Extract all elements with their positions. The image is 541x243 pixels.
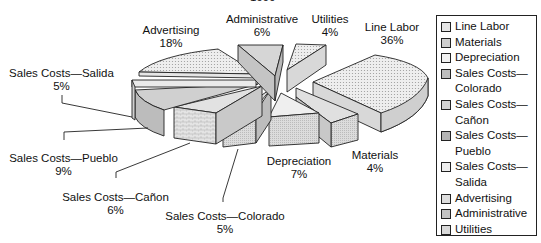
label-materials-name: Materials [345,149,405,162]
legend-text: Materials [455,35,502,51]
label-sales-salida-pct: 5% [4,80,119,93]
legend-item-sales-colorado: Sales Costs— Colorado [441,66,536,97]
label-sales-pueblo: Sales Costs—Pueblo 9% [6,152,121,178]
legend-swatch-icon [441,162,451,172]
label-sales-pueblo-name: Sales Costs—Pueblo [6,152,121,165]
label-sales-colorado-pct: 5% [160,223,290,236]
label-depreciation-pct: 7% [264,168,334,181]
legend-item-sales-pueblo: Sales Costs— Pueblo [441,128,536,159]
label-advertising-pct: 18% [136,37,206,50]
legend-text: Depreciation [455,50,520,66]
label-advertising: Advertising 18% [136,24,206,50]
legend-text: Line Labor [455,19,509,35]
label-sales-salida: Sales Costs—Salida 5% [4,67,119,93]
label-administrative: Administrative 6% [222,13,302,39]
label-sales-salida-name: Sales Costs—Salida [4,67,119,80]
legend-text: Sales Costs— Salida [455,159,528,190]
label-depreciation-name: Depreciation [264,155,334,168]
label-sales-pueblo-pct: 9% [6,165,121,178]
label-line-labor-pct: 36% [362,34,422,47]
legend-swatch-icon [441,131,451,141]
legend-swatch-icon [441,194,451,204]
legend-swatch-icon [441,100,451,110]
title-label: 1999 [250,0,276,4]
label-materials: Materials 4% [345,149,405,175]
label-sales-colorado-name: Sales Costs—Colorado [160,210,290,223]
label-materials-pct: 4% [345,162,405,175]
legend-text: Advertising [455,191,512,207]
legend-swatch-icon [441,22,451,32]
label-sales-colorado: Sales Costs—Colorado 5% [160,210,290,236]
legend-text: Sales Costs— Colorado [455,66,528,97]
label-utilities-name: Utilities [305,13,355,26]
legend-item-administrative: Administrative [441,206,536,222]
legend-swatch-icon [441,225,451,235]
label-administrative-name: Administrative [222,13,302,26]
legend-item-sales-salida: Sales Costs— Salida [441,159,536,190]
label-advertising-name: Advertising [136,24,206,37]
legend-item-advertising: Advertising [441,191,536,207]
label-line-labor-name: Line Labor [362,21,422,34]
legend-item-sales-canon: Sales Costs— Cañon [441,97,536,128]
legend-item-line-labor: Line Labor [441,19,536,35]
label-depreciation: Depreciation 7% [264,155,334,181]
legend-swatch-icon [441,69,451,79]
legend: Line Labor Materials Depreciation Sales … [436,15,537,236]
legend-item-depreciation: Depreciation [441,50,536,66]
legend-swatch-icon [441,38,451,48]
legend-swatch-icon [441,53,451,63]
legend-text: Administrative [455,206,527,222]
label-administrative-pct: 6% [222,26,302,39]
label-sales-canon-pct: 6% [58,204,173,217]
label-sales-canon-name: Sales Costs—Cañon [58,191,173,204]
label-utilities: Utilities 4% [305,13,355,39]
legend-text: Sales Costs— Pueblo [455,128,528,159]
legend-text: Sales Costs— Cañon [455,97,528,128]
legend-item-materials: Materials [441,35,536,51]
legend-text: Utilities [455,222,492,238]
label-line-labor: Line Labor 36% [362,21,422,47]
legend-item-utilities: Utilities [441,222,536,238]
label-utilities-pct: 4% [305,26,355,39]
legend-swatch-icon [441,209,451,219]
label-sales-canon: Sales Costs—Cañon 6% [58,191,173,217]
